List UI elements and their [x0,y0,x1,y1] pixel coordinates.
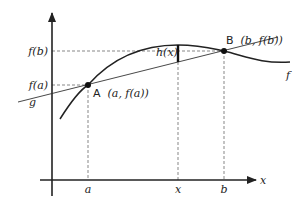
label-f: f [285,69,292,82]
point-b-name: B [226,34,234,47]
point-a-name: A [93,87,101,100]
mvt-diagram: f(b) f(a) a x b x f g h(x) A (a, f(a)) B… [0,0,304,212]
x-tick-a: a [85,183,92,196]
y-tick-fb: f(b) [27,45,48,58]
point-b-dot [221,48,227,54]
x-tick-x: x [175,183,182,196]
point-b-coords: (b, f(b)) [241,34,283,47]
guide-lines [52,51,224,180]
point-a-label: A (a, f(a)) [93,83,149,100]
x-axis-label: x [260,174,267,187]
diagram-canvas: f(b) f(a) a x b x f g h(x) A (a, f(a)) B… [0,0,304,212]
point-b-label: B (b, f(b)) [226,30,283,47]
y-tick-fa: f(a) [28,79,48,92]
point-a-dot [85,82,91,88]
label-g: g [29,96,36,109]
label-h: h(x) [156,46,178,59]
x-tick-b: b [220,183,227,196]
point-a-coords: (a, f(a)) [108,87,149,100]
